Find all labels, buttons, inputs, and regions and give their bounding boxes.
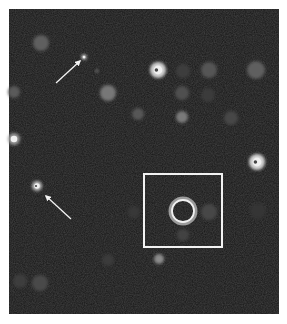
cell: [8, 86, 20, 98]
background-noise: [9, 9, 279, 314]
micrograph-canvas: [0, 0, 287, 324]
cell: [128, 206, 140, 218]
cell: [32, 181, 42, 191]
cell: [100, 85, 116, 101]
cell: [201, 204, 217, 220]
cell: [201, 62, 217, 78]
cell: [132, 108, 144, 120]
cell: [201, 88, 215, 102]
cell: [176, 64, 190, 78]
cell: [177, 229, 189, 241]
cell: [176, 111, 188, 123]
cell: [250, 203, 266, 219]
cell: [33, 35, 49, 51]
cell: [224, 111, 238, 125]
microscopy-figure: [0, 0, 287, 324]
cell: [249, 154, 265, 170]
cell: [154, 254, 164, 264]
cell: [8, 133, 20, 145]
cell: [96, 70, 99, 73]
cell: [247, 61, 265, 79]
cell: [150, 62, 166, 78]
cell: [13, 274, 27, 288]
cell: [102, 254, 114, 266]
cell: [175, 86, 189, 100]
cell: [32, 275, 48, 291]
cell: [82, 55, 87, 60]
